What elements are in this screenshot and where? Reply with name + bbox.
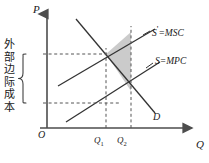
external-marginal-cost-annotation: 外 部 边 际 成 本 (2, 38, 17, 114)
mpc-curve (66, 62, 160, 122)
external-cost-brace (19, 54, 27, 103)
origin-label: O (38, 130, 45, 140)
annotation-char-5: 本 (2, 101, 17, 114)
annotation-char-1: 部 (2, 51, 17, 64)
msc-curve-label: S'=MSC (152, 25, 184, 39)
q2-tick-subscript: 2 (124, 140, 127, 147)
annotation-char-2: 边 (2, 63, 17, 76)
msc-label-rest: =MSC (158, 28, 183, 38)
y-axis-label: P (33, 4, 40, 15)
demand-curve-label: D (153, 112, 160, 122)
annotation-char-4: 成 (2, 88, 17, 101)
annotation-char-3: 际 (2, 76, 17, 89)
q1-tick-subscript: 1 (101, 140, 104, 147)
demand-curve (76, 19, 155, 113)
mpc-curve-label: S=MPC (155, 57, 186, 67)
externality-diagram-figure: P Q O S'=MSC S=MPC D Q1 Q2 外 部 边 际 成 本 (0, 0, 209, 163)
annotation-char-0: 外 (2, 38, 17, 51)
mpc-label-rest: =MPC (160, 56, 186, 66)
q1-tick-label: Q1 (94, 136, 104, 147)
q2-tick-label: Q2 (117, 136, 127, 147)
x-axis-label: Q (196, 139, 204, 150)
